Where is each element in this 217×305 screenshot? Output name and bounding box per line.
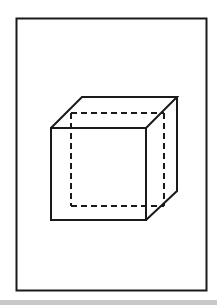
right-face-edges bbox=[146, 97, 177, 220]
bottom-band bbox=[0, 300, 217, 305]
cube-diagram bbox=[0, 0, 217, 305]
hidden-edges bbox=[71, 113, 164, 206]
visible-edges bbox=[51, 97, 177, 220]
